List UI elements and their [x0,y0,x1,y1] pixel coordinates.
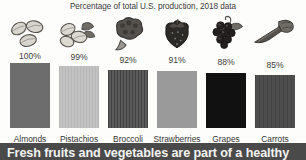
chart-title: Percentage of total U.S. production, 201… [0,2,306,11]
bar-carrots [255,75,295,128]
bar-texture [59,66,99,128]
banner-headline: Fresh fruits and vegetables are part of … [7,146,289,160]
pistachios-icon [55,13,103,53]
almonds-icon [6,13,54,53]
value-label-almonds: 100% [6,51,54,61]
bar-group-almonds: 100% Almonds [6,13,54,145]
bar-texture [255,75,295,128]
bar-group-pistachios: 99% Pistachios [55,13,103,145]
value-label-carrots: 85% [251,60,299,70]
bar-grapes [206,73,246,128]
produce-production-infographic: Percentage of total U.S. production, 201… [0,0,306,160]
value-label-strawberries: 91% [153,55,201,65]
bar-texture [108,70,148,128]
value-label-pistachios: 99% [55,52,103,62]
bar-group-strawberries: 91% Strawberries [153,13,201,145]
bar-strawberries [157,71,197,128]
carrot-icon [251,13,299,53]
bar-group-grapes: 88% Grapes [202,13,250,145]
bar-broccoli [108,70,148,128]
grapes-icon [202,13,250,53]
broccoli-icon [104,13,152,53]
bar-group-broccoli: 92% Broccoli [104,13,152,145]
value-label-broccoli: 92% [104,55,152,65]
bottom-banner: Fresh fruits and vegetables are part of … [0,143,306,160]
bar-group-carrots: 85% Carrots [251,13,299,145]
value-label-grapes: 88% [202,57,250,67]
bar-chart-plot-area: 100% Almonds [6,13,300,145]
bar-pistachios [59,66,99,128]
bar-almonds [10,63,50,128]
strawberry-icon [153,13,201,53]
